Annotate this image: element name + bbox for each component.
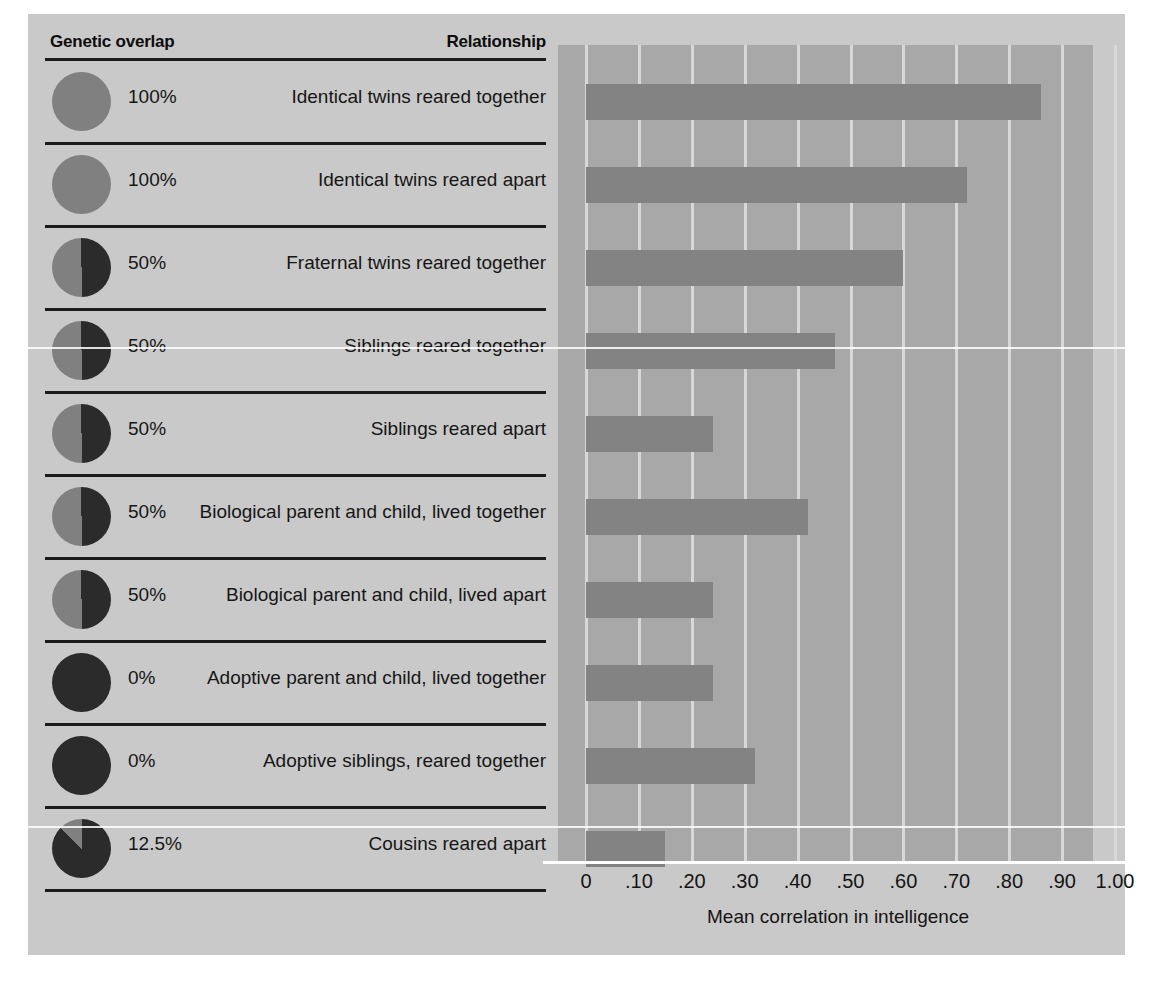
bar (586, 416, 713, 452)
bar (586, 167, 967, 203)
table-row: 0%Adoptive parent and child, lived toget… (28, 642, 558, 725)
scan-artifact-1 (28, 347, 1125, 349)
table-row: 50%Fraternal twins reared together (28, 227, 558, 310)
bar (586, 748, 755, 784)
relationship-label: Identical twins reared together (28, 86, 546, 108)
scan-artifact-2 (28, 826, 1125, 828)
table-row: 100%Identical twins reared apart (28, 144, 558, 227)
bar (586, 499, 808, 535)
relationship-label: Siblings reared apart (28, 418, 546, 440)
x-tick-label: 0 (580, 870, 591, 893)
table-row: 50%Siblings reared together (28, 310, 558, 393)
x-tick-label: .20 (678, 870, 706, 893)
table-row: 50%Biological parent and child, lived to… (28, 476, 558, 559)
relationship-label: Cousins reared apart (28, 833, 546, 855)
table-row: 0%Adoptive siblings, reared together (28, 725, 558, 808)
x-tick-label: .50 (837, 870, 865, 893)
bar (586, 665, 713, 701)
relationship-table: Genetic overlap Relationship 100%Identic… (28, 14, 558, 955)
x-axis-label: Mean correlation in intelligence (558, 906, 1118, 928)
x-tick-label: .90 (1048, 870, 1076, 893)
relationship-label: Biological parent and child, lived apart (28, 584, 546, 606)
x-tick-label: 1.00 (1096, 870, 1135, 893)
relationship-label: Adoptive siblings, reared together (28, 750, 546, 772)
bar (586, 84, 1041, 120)
table-row: 12.5%Cousins reared apart (28, 808, 558, 891)
bar (586, 582, 713, 618)
x-tick-label: .80 (995, 870, 1023, 893)
bar (586, 250, 903, 286)
relationship-label: Identical twins reared apart (28, 169, 546, 191)
plot-area (558, 45, 1093, 863)
relationship-label: Biological parent and child, lived toget… (28, 501, 546, 523)
table-row: 50%Biological parent and child, lived ap… (28, 559, 558, 642)
row-divider (45, 889, 546, 892)
table-row: 100%Identical twins reared together (28, 61, 558, 144)
x-tick-label: .70 (942, 870, 970, 893)
bar (586, 333, 835, 369)
gridline (1061, 45, 1064, 863)
gridline (1114, 45, 1117, 863)
header-divider (45, 58, 546, 61)
relationship-label: Siblings reared together (28, 335, 546, 357)
table-row: 50%Siblings reared apart (28, 393, 558, 476)
x-tick-label: .10 (625, 870, 653, 893)
x-tick-label: .60 (889, 870, 917, 893)
x-tick-label: .40 (784, 870, 812, 893)
x-tick-label: .30 (731, 870, 759, 893)
relationship-label: Adoptive parent and child, lived togethe… (28, 667, 546, 689)
column-header-relationship: Relationship (28, 32, 546, 52)
gridline (1008, 45, 1011, 863)
figure-panel: Genetic overlap Relationship 100%Identic… (28, 14, 1125, 955)
x-axis-line (543, 861, 1125, 864)
relationship-label: Fraternal twins reared together (28, 252, 546, 274)
